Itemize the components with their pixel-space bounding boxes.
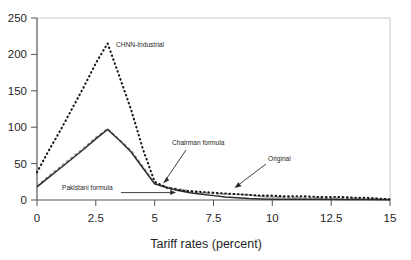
y-tick-label-100: 100 (8, 121, 27, 133)
annotation-label-pakistani-formula: Pakistani formula (62, 184, 113, 191)
y-tick-label-250: 250 (8, 12, 27, 24)
x-tick-label-15: 15 (384, 212, 397, 224)
x-axis-title: Tariff rates (percent) (150, 237, 262, 251)
x-tick-label-12-5: 12.5 (320, 212, 342, 224)
x-tick-label-2-5: 2.5 (88, 212, 104, 224)
y-tick-label-200: 200 (8, 48, 27, 60)
x-tick-label-0: 0 (34, 212, 40, 224)
y-tick-label-0: 0 (21, 194, 27, 206)
annotation-label-chnn-industrial: CHNN-Industrial (116, 41, 165, 48)
chart-container: 0 50 100 150 200 250 0 2.5 5 7.5 10 (0, 0, 411, 260)
tariff-rates-line-chart: 0 50 100 150 200 250 0 2.5 5 7.5 10 (0, 0, 411, 260)
annotation-label-original: Original (268, 155, 291, 163)
x-tick-label-5: 5 (151, 212, 157, 224)
annotation-chnn-industrial: CHNN-Industrial (116, 41, 165, 48)
x-tick-label-7-5: 7.5 (206, 212, 222, 224)
y-tick-label-50: 50 (14, 158, 27, 170)
x-tick-label-10: 10 (266, 212, 279, 224)
y-tick-label-150: 150 (8, 85, 27, 97)
annotation-label-chairman-formula: Chairman formula (172, 139, 225, 146)
